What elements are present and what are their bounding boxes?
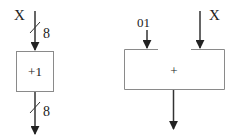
incrementer-input-label: X	[14, 7, 25, 23]
incrementer-block: X 8 +1 8	[14, 7, 54, 134]
incrementer-operation: +1	[28, 64, 42, 79]
adder-input-b-label: X	[209, 7, 220, 23]
adder-operation: +	[170, 63, 177, 78]
adder-block: 01 X +	[125, 7, 225, 129]
adder-input-a-label: 01	[137, 15, 150, 30]
incrementer-input-width: 8	[43, 26, 50, 41]
diagram-canvas: X 8 +1 8 01 X +	[0, 0, 241, 137]
incrementer-output-width: 8	[43, 104, 50, 119]
